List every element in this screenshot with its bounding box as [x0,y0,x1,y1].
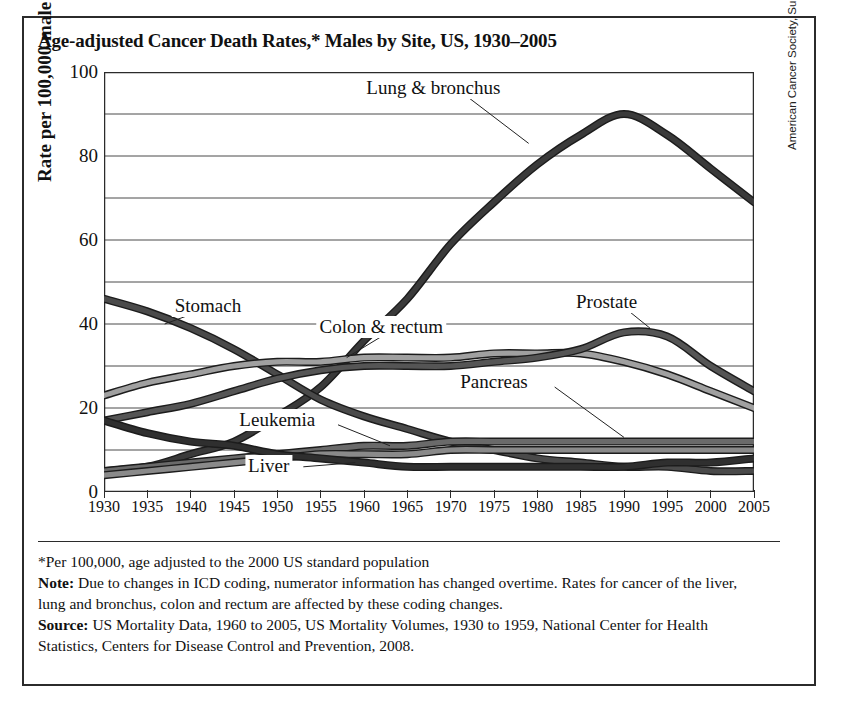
footnote-divider [38,541,780,542]
annotation-leader-line [555,387,624,437]
x-tick-mark [364,490,365,498]
source-label: Source: [38,616,89,633]
x-tick-mark [320,490,321,498]
series-label-prostate: Prostate [573,291,640,313]
series-line [104,114,754,471]
x-tick-label: 1950 [261,498,293,516]
x-tick-mark [667,490,668,498]
source-text: US Mortality Data, 1960 to 2005, US Mort… [38,616,708,653]
plot-region: Lung & bronchusStomachColon & rectumPros… [104,72,754,492]
x-tick-mark [104,490,105,498]
x-tick-label: 2000 [695,498,727,516]
x-tick-label: 1935 [131,498,163,516]
x-tick-mark [277,490,278,498]
series-label-pancreas: Pancreas [457,371,531,393]
x-tick-label: 1945 [218,498,250,516]
series-outline [104,114,754,471]
x-tick-mark [190,490,191,498]
y-axis-ticks: 020406080100 [46,72,98,492]
x-tick-label: 1960 [348,498,380,516]
footnote-asterisk: *Per 100,000, age adjusted to the 2000 U… [38,552,738,572]
x-tick-mark [494,490,495,498]
x-tick-label: 1975 [478,498,510,516]
x-tick-label: 1940 [175,498,207,516]
x-tick-label: 1970 [435,498,467,516]
annotation-leader-line [468,97,529,143]
x-tick-mark [450,490,451,498]
x-axis-ticks: 1930193519401945195019551960196519701975… [104,498,754,526]
x-tick-mark [710,490,711,498]
chart-svg [104,72,754,492]
chart-area: Rate per 100,000 male population 0204060… [38,64,778,534]
chart-page: Age-adjusted Cancer Death Rates,* Males … [0,0,847,709]
x-tick-mark [624,490,625,498]
page-title: Age-adjusted Cancer Death Rates,* Males … [38,30,557,52]
series-label-leukemia: Leukemia [236,409,318,431]
x-tick-label: 1980 [521,498,553,516]
x-tick-mark [537,490,538,498]
footnotes: *Per 100,000, age adjusted to the 2000 U… [38,552,738,657]
x-tick-mark [754,490,755,498]
series-label-liver: Liver [245,455,292,477]
x-tick-label: 2005 [738,498,770,516]
x-tick-label: 1930 [88,498,120,516]
series-lung-bronchus [104,114,754,471]
x-tick-label: 1995 [651,498,683,516]
note-text: Due to changes in ICD coding, numerator … [38,574,737,611]
x-tick-label: 1955 [305,498,337,516]
footnote-note: Note: Due to changes in ICD coding, nume… [38,573,738,614]
x-tick-label: 1985 [565,498,597,516]
x-tick-label: 1965 [391,498,423,516]
y-tick-label: 40 [54,313,98,335]
y-tick-label: 80 [54,145,98,167]
x-tick-mark [580,490,581,498]
series-label-lung-bronchus: Lung & bronchus [363,77,503,99]
x-tick-mark [407,490,408,498]
y-tick-label: 100 [54,61,98,83]
footnote-source: Source: US Mortality Data, 1960 to 2005,… [38,615,738,656]
series-label-stomach: Stomach [172,295,245,317]
credit-line: American Cancer Society, Surveillance an… [786,0,798,150]
series-label-colon-rectum: Colon & rectum [317,316,446,338]
y-tick-label: 20 [54,397,98,419]
x-tick-label: 1990 [608,498,640,516]
note-label: Note: [38,574,74,591]
y-tick-label: 60 [54,229,98,251]
x-tick-mark [147,490,148,498]
x-tick-mark [234,490,235,498]
